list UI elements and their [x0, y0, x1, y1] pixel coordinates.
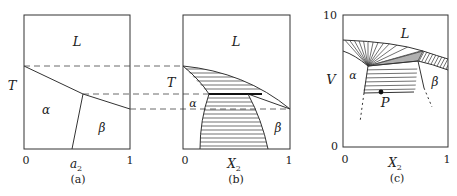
panel-c-point-P-label: P — [380, 95, 390, 110]
panel-a-x-tick-1: 1 — [127, 154, 134, 167]
panel-c-caption: (c) — [390, 172, 405, 185]
panel-b: L α β T 0 1 X2 (b) — [167, 15, 300, 186]
panel-c-x-tick-1: 1 — [444, 153, 451, 166]
panel-a-caption: (a) — [70, 173, 85, 186]
panel-b-region-L: L — [231, 34, 241, 49]
panel-a-y-label: T — [8, 78, 18, 93]
panel-b-hatch-liquid-alpha — [183, 69, 300, 89]
panel-a-region-L: L — [72, 34, 82, 49]
panel-c-alpha-solvus-extension — [360, 93, 364, 122]
panel-b-x-tick-0: 0 — [182, 154, 189, 167]
panel-c-y-tick-0: 0 — [331, 140, 338, 153]
panel-c-region-L: L — [400, 26, 410, 41]
panel-c-region-alpha: α — [349, 69, 357, 82]
panel-c-region-beta: β — [431, 75, 439, 89]
panel-a-region-alpha: α — [42, 103, 50, 117]
panel-c-tie-line-bottom — [364, 92, 414, 93]
panel-c-x-label: X2 — [387, 156, 402, 172]
panel-a-region-beta: β — [98, 121, 106, 135]
panel-b-alpha-solidus-curve — [183, 66, 209, 94]
panel-b-y-label: T — [167, 75, 177, 90]
panel-c-beta-solidus — [418, 61, 448, 70]
panel-c-alpha-solvus — [364, 66, 368, 93]
panel-c-y-label: V — [326, 72, 337, 87]
panel-b-region-alpha: α — [189, 97, 197, 110]
phase-diagram-figure: L α β T 0 1 a2 (a) — [0, 0, 457, 196]
panel-a-alpha-beta-boundary — [72, 94, 83, 149]
panel-c-x-tick-0: 0 — [342, 153, 349, 166]
panel-c-point-P-marker — [379, 90, 384, 95]
panel-c-liquidus-right — [423, 51, 448, 59]
panel-a: L α β T 0 1 a2 (a) — [8, 15, 134, 186]
panel-b-x-label: X2 — [226, 157, 241, 173]
panel-b-caption: (b) — [228, 173, 244, 186]
dashed-connectors — [24, 66, 290, 109]
panel-b-x-tick-1: 1 — [286, 154, 293, 167]
panel-c-beta-solvus-extension — [424, 88, 432, 107]
panel-a-liquidus-line — [24, 66, 130, 109]
panel-b-liquidus-curve — [183, 66, 290, 109]
panel-c-hatch-alpha-beta — [360, 69, 420, 90]
panel-c: L α β P V 10 0 0 1 X2 (c) — [323, 9, 453, 185]
panel-a-x-label: a2 — [70, 157, 82, 173]
panel-b-region-beta: β — [274, 121, 282, 135]
panel-c-y-tick-10: 10 — [323, 9, 337, 22]
panel-a-x-tick-0: 0 — [23, 154, 30, 167]
panel-c-beta-solvus — [418, 61, 424, 88]
